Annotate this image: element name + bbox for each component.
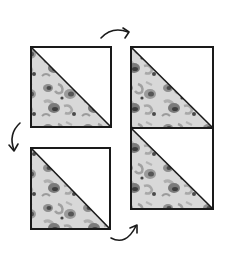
quilt-diagram [0,0,231,255]
quilt-block-bottom-right [131,128,213,209]
quilt-block-top-left [31,47,111,127]
quilt-block-bottom-left [31,148,110,229]
arrow-bottom-icon [111,225,137,240]
quilt-block-top-right [131,47,213,128]
arrow-left-icon [9,123,20,151]
arrow-top-icon [101,28,129,38]
